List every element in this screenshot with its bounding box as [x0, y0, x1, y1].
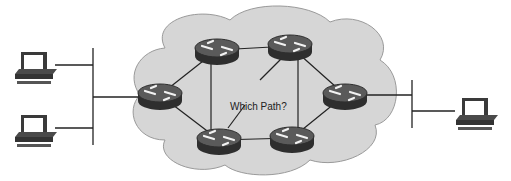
- router-icon: [195, 39, 239, 65]
- router-icon: [138, 84, 182, 110]
- which-path-label: Which Path?: [230, 101, 287, 112]
- network-diagram: Which Path?: [0, 0, 511, 181]
- computer-icon: [15, 52, 57, 84]
- computer-icon: [456, 98, 498, 130]
- diagram-svg: [0, 0, 511, 181]
- router-icon: [323, 84, 367, 110]
- computer-icon: [15, 115, 57, 147]
- router-icon: [268, 35, 312, 61]
- router-icon: [270, 127, 314, 153]
- router-icon: [197, 129, 241, 155]
